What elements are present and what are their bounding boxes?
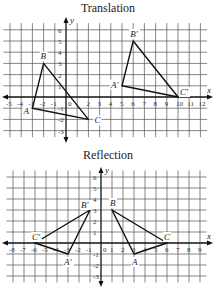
y-tick-label: 5 [93,185,97,193]
triangle-abc: ABC [109,198,171,267]
y-tick-label: -1 [58,105,64,113]
x-arrow-right-icon [207,95,213,100]
y-tick-label: 6 [93,174,97,182]
y-tick-label: 4 [93,196,97,204]
y-tick-label: -3 [58,128,64,136]
y-tick-label: -2 [58,116,64,124]
y-tick-label: -1 [93,251,99,259]
x-tick-label: 12 [198,100,206,108]
y-axis-label: y [104,165,109,175]
x-tick-label: -6 [31,246,37,254]
x-tick-label: 8 [187,246,191,254]
x-axis-label: x [206,85,211,95]
x-tick-label: 9 [165,100,169,108]
y-arrow-up-icon [64,17,69,23]
x-tick-label: 0 [103,246,107,254]
vertex-label: B [41,51,47,61]
x-tick-label: 2 [86,100,90,108]
x-tick-label: -2 [40,100,46,108]
x-tick-label: 0 [68,100,72,108]
axes: yx [2,15,213,143]
vertex-label: A [131,257,138,267]
x-tick-label: -8 [9,246,15,254]
x-tick-label: 8 [154,100,158,108]
x-tick-label: -2 [75,246,81,254]
y-tick-label: 6 [58,27,62,35]
reflection-graph: yx-8-7-6-5-4-3-2-10123456789-3-2-1123456… [0,145,216,289]
x-tick-label: 6 [165,246,169,254]
y-arrow-down-icon [64,137,69,143]
y-tick-label: 4 [58,49,62,57]
x-tick-label: 7 [176,246,180,254]
y-arrow-up-icon [99,167,104,173]
vertex-label: B′ [130,29,138,39]
x-tick-label: 6 [131,100,135,108]
y-tick-label: -3 [93,273,99,281]
y-tick-label: 2 [58,72,62,80]
x-tick-label: 1 [110,246,114,254]
vertex-label: B [110,198,116,208]
x-tick-label: 9 [198,246,202,254]
x-tick-label: 7 [142,100,146,108]
x-tick-label: 11 [187,100,194,108]
x-tick-label: 10 [176,100,184,108]
x-arrow-right-icon [207,241,213,246]
y-tick-label: 3 [93,207,97,215]
x-tick-label: -5 [6,100,12,108]
grid-lines [3,23,207,137]
vertex-label: B′ [81,200,89,210]
vertex-label: C′ [32,232,41,242]
x-arrow-left-icon [2,95,8,100]
vertex-label: C [94,115,101,125]
y-tick-label: 3 [58,60,62,68]
y-tick-label: 2 [93,218,97,226]
axes: yx [2,165,213,287]
x-tick-label: 5 [120,100,124,108]
y-arrow-down-icon [99,281,104,287]
vertex-label: C [164,232,171,242]
x-tick-label: 4 [109,100,113,108]
vertex-label: C′ [180,87,189,97]
vertex-label: A [22,106,29,116]
x-arrow-left-icon [2,241,8,246]
x-tick-label: -1 [86,246,92,254]
x-axis-label: x [206,231,211,241]
x-tick-label: 2 [121,246,125,254]
grid-lines [6,170,206,282]
x-tick-label: -7 [20,246,26,254]
y-tick-label: -2 [93,262,99,270]
vertex-label: A′ [63,257,72,267]
y-tick-label: 5 [58,38,62,46]
translation-graph: yx-5-4-3-2-1023456789101112-3-2-1123456A… [0,0,216,145]
vertex-label: A′ [110,80,119,90]
y-axis-label: y [69,15,74,25]
triangle-abc: ABC [22,51,101,125]
x-tick-label: -1 [51,100,57,108]
y-tick-label: 1 [93,229,97,237]
x-tick-label: 3 [98,100,102,108]
